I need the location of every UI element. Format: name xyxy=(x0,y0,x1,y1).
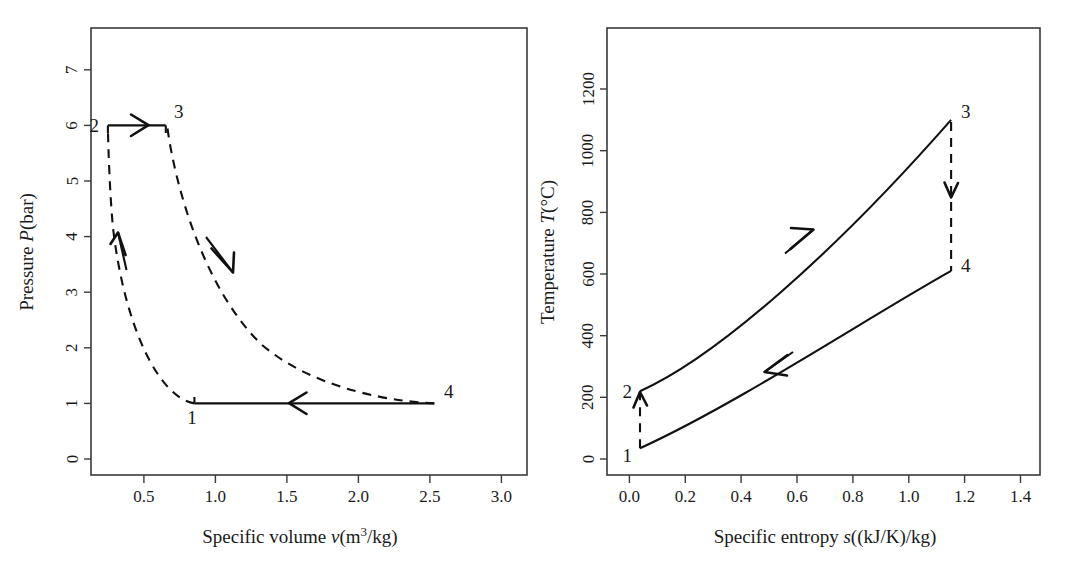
pv-state-label-3: 3 xyxy=(174,101,184,122)
pv-y-axis-title-symbol: P xyxy=(16,230,37,243)
ts-ytick-4: 800 xyxy=(579,200,598,226)
pv-process-1-2-curve xyxy=(108,129,194,404)
pv-x-axis-title-units-pre: (m xyxy=(339,526,360,548)
ts-process-2-3-arrow-shaft xyxy=(785,230,814,254)
pv-xtick-1: 1.0 xyxy=(205,487,226,506)
ts-y-axis-ticks xyxy=(600,89,607,459)
ts-xtick-4: 0.8 xyxy=(842,487,863,506)
pv-ytick-4: 4 xyxy=(63,232,82,241)
pv-state-label-1: 1 xyxy=(187,407,197,428)
pv-ytick-2: 2 xyxy=(63,344,82,353)
pv-xtick-4: 2.5 xyxy=(419,487,440,506)
ts-y-axis-title-units: (°C) xyxy=(537,180,559,213)
ts-y-axis-ticklabels: 0 200 400 600 800 1000 1200 xyxy=(579,72,598,463)
pv-y-axis-ticklabels: 0 1 2 3 4 5 6 7 xyxy=(63,65,82,463)
ts-state-label-4: 4 xyxy=(961,255,971,276)
ts-diagram-svg: 0 200 400 600 800 1000 1200 Temperature … xyxy=(537,0,1075,581)
pv-xtick-0: 0.5 xyxy=(133,487,154,506)
ts-xtick-3: 0.6 xyxy=(786,487,807,506)
pv-x-axis-title-units-post: /kg) xyxy=(367,526,398,548)
ts-diagram-panel: 0 200 400 600 800 1000 1200 Temperature … xyxy=(537,0,1075,581)
ts-ytick-0: 0 xyxy=(579,455,598,464)
ts-x-axis-title: Specific entropy s((kJ/K)/kg) xyxy=(714,526,937,548)
pv-ytick-3: 3 xyxy=(63,288,82,297)
ts-ytick-2: 400 xyxy=(579,323,598,349)
ts-x-axis-title-units: ((kJ/K)/kg) xyxy=(851,526,936,548)
pv-y-axis-title: Pressure P(bar) xyxy=(16,193,38,311)
pv-y-axis-title-text: Pressure xyxy=(16,242,37,311)
pv-xtick-3: 2.0 xyxy=(348,487,369,506)
ts-process-2-3-curve xyxy=(640,120,951,391)
pv-ytick-1: 1 xyxy=(63,399,82,408)
pv-x-axis-ticks xyxy=(144,475,502,483)
ts-state-label-3: 3 xyxy=(961,101,971,122)
ts-y-axis-title: Temperature T(°C) xyxy=(537,180,559,324)
ts-process-4-1-curve xyxy=(640,271,951,448)
pv-x-axis-title-text: Specific volume xyxy=(202,526,331,547)
pv-ytick-7: 7 xyxy=(63,65,82,74)
ts-state-label-2: 2 xyxy=(623,381,633,402)
ts-x-axis-title-text: Specific entropy xyxy=(714,526,844,547)
pv-state-label-4: 4 xyxy=(444,381,454,402)
pv-y-axis-title-units: (bar) xyxy=(16,193,38,230)
pv-x-axis-ticklabels: 0.5 1.0 1.5 2.0 2.5 3.0 xyxy=(133,487,512,506)
ts-xtick-0: 0.0 xyxy=(619,487,640,506)
ts-ytick-5: 1000 xyxy=(579,134,598,168)
ts-xtick-7: 1.4 xyxy=(1010,487,1032,506)
ts-xtick-5: 1.0 xyxy=(898,487,919,506)
ts-xtick-6: 1.2 xyxy=(954,487,975,506)
ts-x-axis-title-symbol: s xyxy=(843,526,850,547)
pv-plot-frame xyxy=(91,28,527,475)
pv-process-3-4-arrow-shaft xyxy=(206,237,233,273)
pv-xtick-2: 1.5 xyxy=(276,487,297,506)
pv-ytick-6: 6 xyxy=(63,121,82,129)
ts-process-4-1-arrow-shaft xyxy=(765,352,794,372)
ts-x-axis-ticklabels: 0.0 0.2 0.4 0.6 0.8 1.0 1.2 1.4 xyxy=(619,487,1032,506)
pv-ytick-5: 5 xyxy=(63,177,82,186)
pv-diagram-svg: 0 1 2 3 4 5 6 7 Pressure P(bar) xyxy=(0,0,537,581)
ts-ytick-6: 1200 xyxy=(579,72,598,106)
ts-xtick-1: 0.2 xyxy=(675,487,696,506)
pv-state-label-2: 2 xyxy=(90,115,100,136)
ts-state-label-1: 1 xyxy=(623,445,633,466)
ts-x-axis-ticks xyxy=(629,475,1020,483)
ts-ytick-3: 600 xyxy=(579,261,598,287)
thermodynamic-cycle-figure: 0 1 2 3 4 5 6 7 Pressure P(bar) xyxy=(0,0,1075,581)
pv-process-3-4-curve xyxy=(168,129,435,404)
ts-plot-frame xyxy=(607,28,1040,475)
ts-xtick-2: 0.4 xyxy=(730,487,752,506)
pv-xtick-5: 3.0 xyxy=(491,487,512,506)
pv-x-axis-title: Specific volume v(m3/kg) xyxy=(202,524,397,549)
pv-ytick-0: 0 xyxy=(63,455,82,464)
ts-ytick-1: 200 xyxy=(579,385,598,411)
ts-y-axis-title-text: Temperature xyxy=(537,224,558,324)
pv-diagram-panel: 0 1 2 3 4 5 6 7 Pressure P(bar) xyxy=(0,0,537,581)
